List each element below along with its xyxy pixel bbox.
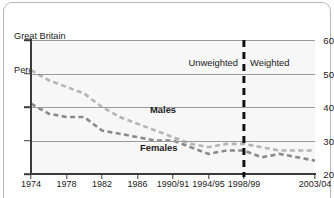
- x-tick-label-1994-95: 1994/95: [192, 179, 225, 189]
- gridline-60: [31, 40, 315, 41]
- x-tick-label-1978: 1978: [56, 179, 76, 189]
- series-label-males: Males: [150, 104, 176, 115]
- x-tick-mark-1982: [101, 175, 102, 179]
- x-tick-label-1986: 1986: [127, 179, 147, 189]
- x-tick-mark-1978: [66, 175, 67, 179]
- series-label-females: Females: [140, 142, 178, 153]
- chart-figure: Great Britain Percentages 2030405060 197…: [0, 0, 334, 198]
- x-tick-mark-2003-04: [314, 175, 315, 179]
- y-axis-line: [30, 39, 32, 175]
- annotation-weighted: Weighted: [250, 57, 289, 68]
- x-tick-mark-1986: [137, 175, 138, 179]
- x-axis-line: [30, 173, 316, 175]
- annotation-unweighted: Unweighted: [188, 57, 238, 68]
- x-tick-label-1998-99: 1998/99: [228, 179, 261, 189]
- x-tick-mark-1994-95: [208, 175, 209, 179]
- y-tick-label-40: 40: [310, 102, 334, 113]
- x-tick-mark-1990-91: [172, 175, 173, 179]
- y-tick-label-50: 50: [310, 68, 334, 79]
- y-tick-label-60: 60: [310, 35, 334, 46]
- x-tick-label-1974: 1974: [21, 179, 41, 189]
- x-tick-label-1990-91: 1990/91: [157, 179, 190, 189]
- y-tick-label-30: 30: [310, 135, 334, 146]
- x-tick-label-1982: 1982: [92, 179, 112, 189]
- gridline-50: [31, 74, 315, 75]
- x-tick-label-2003-04: 2003/04: [299, 179, 332, 189]
- x-tick-mark-1974: [30, 175, 31, 179]
- weighting-divider-line: [242, 40, 245, 177]
